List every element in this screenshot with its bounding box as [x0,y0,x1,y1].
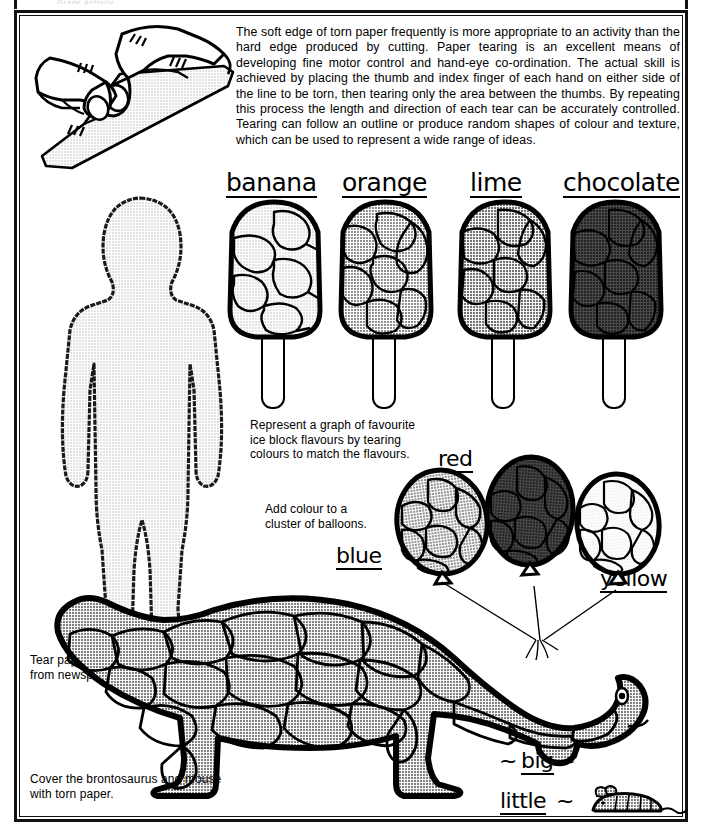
page-top-crop: Grade Activity [14,0,688,9]
balloon-red [483,455,583,590]
intro-paragraph: The soft edge of torn paper frequently i… [236,25,680,148]
tilde-mark-little: ~ [556,788,574,813]
balloon-label-blue: blue [336,545,382,570]
ghost-header-text: Grade Activity [57,0,114,4]
dinosaur-caption: Cover the brontosaurus and mouse with to… [30,772,230,801]
ice-block-label-chocolate: chocolate [563,170,680,198]
ice-block-label-lime: lime [470,170,522,198]
tilde-mark-big-trailing: ~ [562,752,575,771]
balloon-yellow [572,472,672,602]
ice-blocks-caption: Represent a graph of favourite ice block… [250,418,425,462]
label-little: little [500,790,546,815]
ice-block-banana [222,198,332,413]
ice-block-lime [452,198,562,413]
worksheet-page: Grade Activity [0,0,701,833]
tilde-mark-big: ~ [499,748,517,773]
torn-paper-doll-figure [52,190,232,650]
hands-tearing-paper-illustration [28,16,238,176]
ice-block-label-banana: banana [226,170,317,198]
shading-hatch-right [170,57,186,68]
ice-block-orange [333,198,443,413]
ice-block-label-orange: orange [342,170,427,198]
ice-block-chocolate [563,198,673,413]
label-big: big [521,750,554,775]
balloons-caption: Add colour to a cluster of balloons. [265,502,375,531]
mouse-illustration [583,784,688,820]
